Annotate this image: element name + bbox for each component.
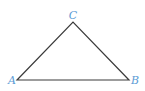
triangle-abc — [17, 22, 129, 80]
vertex-label-c: C — [69, 9, 78, 22]
vertex-label-b: B — [130, 74, 139, 87]
vertex-label-a: A — [7, 74, 16, 87]
triangle-diagram: C A B — [0, 0, 145, 91]
